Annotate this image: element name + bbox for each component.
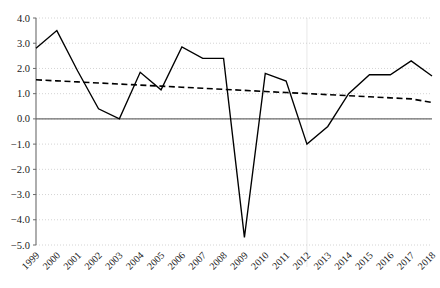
y-axis-label: 2.0 — [17, 63, 30, 74]
x-axis-label: 2012 — [290, 250, 312, 272]
y-axis-label: −5.0 — [11, 240, 30, 251]
y-axis-label: 4.0 — [17, 13, 30, 24]
y-axis-label: 3.0 — [17, 38, 30, 49]
x-axis-label: 2003 — [103, 250, 125, 272]
trend-line — [36, 80, 432, 103]
x-axis-label: 2009 — [228, 250, 250, 272]
x-axis-tick-labels: 1999200020012002200320042005200620072008… — [19, 250, 437, 272]
x-axis-label: 2016 — [374, 250, 396, 272]
x-axis-label: 2006 — [165, 250, 187, 272]
chart-container: 4.03.02.01.00.0−1.0−2.0−3.0−4.0−5.0 1999… — [0, 0, 440, 288]
x-axis-label: 2014 — [332, 250, 354, 272]
x-axis-label: 2004 — [124, 250, 146, 272]
x-axis-label: 1999 — [19, 250, 41, 272]
x-axis-label: 2011 — [270, 250, 292, 272]
x-axis-label: 2013 — [311, 250, 333, 272]
x-axis-label: 2010 — [249, 250, 271, 272]
y-axis-label: −4.0 — [11, 214, 30, 225]
x-axis-label: 2005 — [145, 250, 167, 272]
x-axis-label: 2018 — [415, 250, 437, 272]
y-axis-label: −3.0 — [11, 189, 30, 200]
y-axis-tick-labels: 4.03.02.01.00.0−1.0−2.0−3.0−4.0−5.0 — [11, 13, 30, 251]
x-axis-label: 2008 — [207, 250, 229, 272]
y-axis-label: 1.0 — [17, 88, 30, 99]
x-axis-label: 2015 — [353, 250, 375, 272]
axis-lines — [36, 18, 432, 245]
x-axis-label: 2017 — [395, 250, 417, 272]
x-axis-label: 2007 — [186, 250, 208, 272]
y-axis-label: −1.0 — [11, 139, 30, 150]
x-axis-label: 2001 — [61, 250, 83, 272]
line-chart: 4.03.02.01.00.0−1.0−2.0−3.0−4.0−5.0 1999… — [0, 0, 440, 288]
x-axis-label: 2002 — [82, 250, 104, 272]
y-axis-label: −2.0 — [11, 164, 30, 175]
y-axis-label: 0.0 — [17, 113, 30, 124]
data-series-line — [36, 31, 432, 238]
x-axis-label: 2000 — [40, 250, 62, 272]
